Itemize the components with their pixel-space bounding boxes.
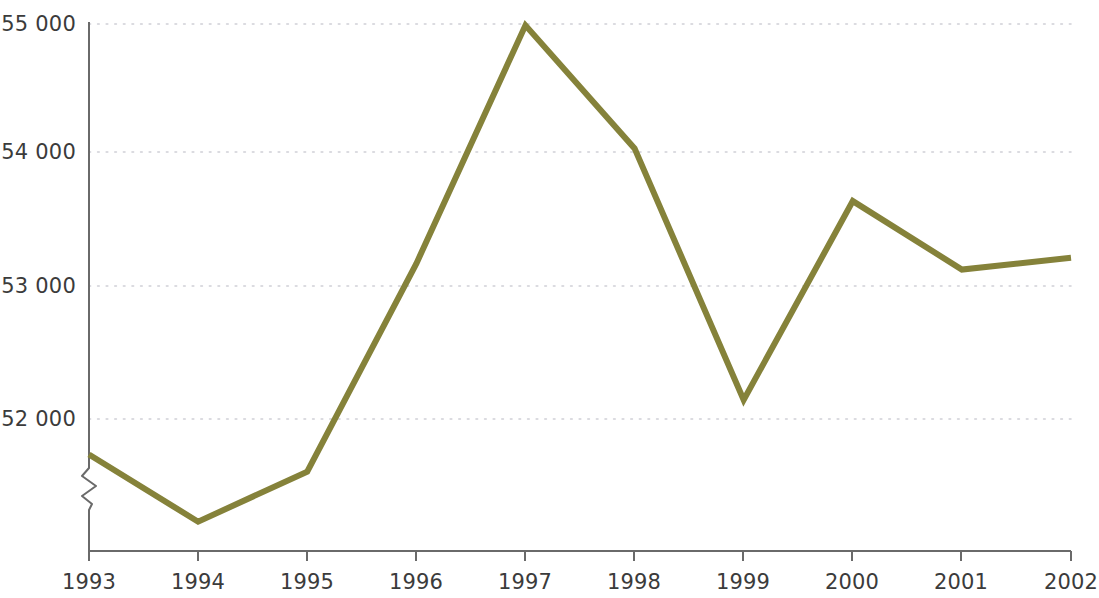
- y-tick-label-54000: 54 000: [0, 140, 76, 164]
- x-tick-label-1997: 1997: [475, 570, 575, 594]
- x-tick-label-2001: 2001: [911, 570, 1011, 594]
- y-tick-label-53000: 53 000: [0, 274, 76, 298]
- chart-canvas: [0, 0, 1099, 598]
- x-tick-label-1999: 1999: [693, 570, 793, 594]
- y-axis: [82, 22, 96, 551]
- x-tick-label-1996: 1996: [366, 570, 466, 594]
- x-tick-label-2000: 2000: [802, 570, 902, 594]
- x-tick-label-1994: 1994: [148, 570, 248, 594]
- y-tick-label-55000: 55 000: [0, 12, 76, 36]
- x-tick-label-1993: 1993: [39, 570, 139, 594]
- x-tick-label-2002: 2002: [1021, 570, 1099, 594]
- data-series-line: [89, 25, 1071, 521]
- x-axis: [89, 551, 1071, 561]
- x-tick-label-1995: 1995: [257, 570, 357, 594]
- y-axis-break-zigzag: [82, 468, 96, 510]
- x-tick-label-1998: 1998: [584, 570, 684, 594]
- y-tick-label-52000: 52 000: [0, 407, 76, 431]
- line-chart: 55 000 54 000 53 000 52 000 1993 1994 19…: [0, 0, 1099, 598]
